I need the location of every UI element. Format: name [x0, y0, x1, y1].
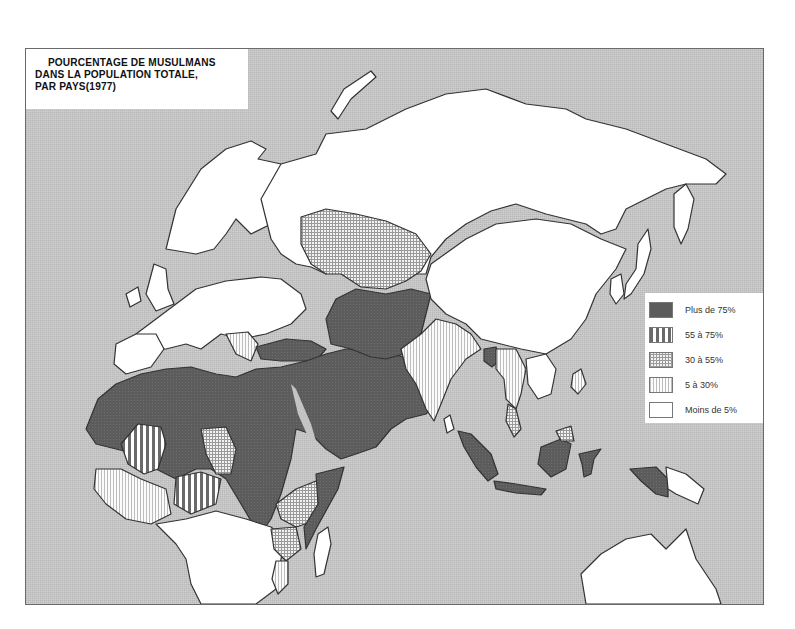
australia — [581, 529, 721, 604]
burma-thailand — [496, 349, 526, 409]
nigeria-chad — [174, 472, 221, 514]
korea — [610, 274, 624, 304]
indochina — [526, 354, 556, 399]
java — [494, 481, 546, 495]
japan — [624, 229, 651, 299]
legend-label: 5 à 30% — [685, 380, 718, 390]
legend-item-30-55: 30 à 55% — [649, 352, 723, 368]
legend-item-moins-5: Moins de 5% — [649, 402, 737, 418]
map-title-line-3: PAR PAYS(1977) — [35, 80, 216, 92]
map-legend: Plus de 75% 55 à 75% 30 à 55% 5 à 30% Mo… — [645, 293, 763, 423]
malaysia — [506, 404, 521, 437]
sumatra — [458, 431, 498, 481]
borneo — [538, 439, 571, 477]
swatch-moins-5-icon — [649, 402, 673, 418]
central-south-africa — [156, 511, 286, 604]
iberia — [114, 334, 164, 374]
swatch-30-55-icon — [649, 352, 673, 368]
legend-item-55-75: 55 à 75% — [649, 327, 723, 343]
papua-new-guinea — [666, 467, 704, 504]
kamchatka — [674, 184, 694, 244]
swatch-plus-75-icon — [649, 302, 673, 318]
legend-label: Moins de 5% — [685, 405, 737, 415]
sulawesi — [579, 449, 601, 477]
philippines — [571, 369, 586, 394]
madagascar — [314, 527, 331, 577]
borneo-north — [556, 426, 574, 441]
legend-label: Plus de 75% — [685, 305, 736, 315]
legend-item-5-30: 5 à 30% — [649, 377, 718, 393]
legend-label: 30 à 55% — [685, 355, 723, 365]
west-africa — [94, 469, 171, 524]
map-title-line-1: POURCENTAGE DE MUSULMANS — [35, 56, 216, 68]
map-title-line-2: DANS LA POPULATION TOTALE, — [35, 68, 216, 80]
sri-lanka — [444, 415, 454, 433]
ireland — [126, 287, 141, 307]
legend-item-plus-75: Plus de 75% — [649, 302, 736, 318]
swatch-5-30-icon — [649, 377, 673, 393]
novaya-zemlya — [331, 71, 376, 119]
swatch-55-75-icon — [649, 327, 673, 343]
map-title-box: POURCENTAGE DE MUSULMANS DANS LA POPULAT… — [26, 49, 248, 109]
legend-label: 55 à 75% — [685, 330, 723, 340]
map-frame: POURCENTAGE DE MUSULMANS DANS LA POPULAT… — [25, 48, 764, 605]
uk — [146, 264, 174, 311]
irian-jaya — [630, 467, 668, 497]
